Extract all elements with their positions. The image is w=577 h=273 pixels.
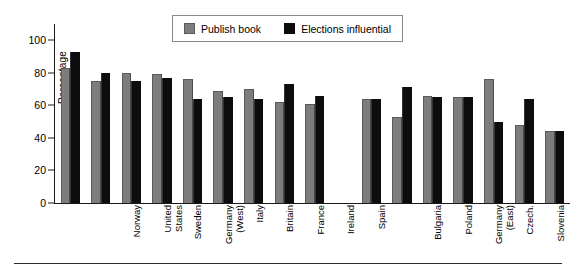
bar-elections-influential [193, 99, 203, 203]
x-tick-label: Italy [255, 205, 266, 263]
bar-publish-book [362, 99, 372, 203]
bar-publish-book [484, 79, 494, 203]
bar-elections-influential [223, 97, 233, 203]
x-tick-label: Norway [132, 205, 143, 263]
bar-publish-book [91, 81, 101, 203]
y-axis-ticks: 020406080100 [0, 0, 60, 273]
bar-publish-book [545, 131, 555, 203]
y-tick-label-20: 20 [34, 164, 46, 176]
bar-elections-influential [555, 131, 565, 203]
bar-elections-influential [371, 99, 381, 203]
bar-group [362, 24, 381, 203]
bar-publish-book [244, 89, 254, 203]
bar-elections-influential [463, 97, 473, 203]
x-tick-label: Britain [285, 205, 296, 263]
bar-publish-book [183, 79, 193, 203]
bar-group [213, 24, 232, 203]
chart-legend: Publish bookElections influential [172, 15, 403, 42]
x-tick-label: Poland [464, 205, 475, 263]
bar-group [61, 24, 80, 203]
bar-elections-influential [402, 87, 412, 203]
bar-publish-book [305, 104, 315, 203]
bar-group [423, 24, 442, 203]
plot-area [55, 24, 570, 203]
bar-elections-influential [162, 78, 172, 203]
x-tick-label: Slovenia [556, 205, 567, 263]
x-tick-label: Spain [377, 205, 388, 263]
legend-swatch-icon [284, 23, 295, 34]
bar-group [244, 24, 263, 203]
x-tick-label: Bulgaria [433, 205, 444, 263]
bar-elections-influential [432, 97, 442, 203]
legend-label: Publish book [201, 23, 261, 35]
x-tick-label: Germany (West) [224, 205, 245, 263]
bar-publish-book [275, 102, 285, 203]
legend-entry: Elections influential [284, 23, 391, 35]
bar-group [392, 24, 411, 203]
bar-publish-book [61, 68, 71, 203]
y-tick-label-100: 100 [28, 34, 46, 46]
bar-group [152, 24, 171, 203]
bar-group [515, 24, 534, 203]
bar-group [545, 24, 564, 203]
x-tick-label: Czech. [525, 205, 536, 263]
y-tick-label-80: 80 [34, 67, 46, 79]
x-axis-line [54, 203, 570, 204]
footer-rule [14, 263, 562, 264]
bar-group [183, 24, 202, 203]
bar-group [91, 24, 110, 203]
x-axis-labels: NorwayUnited StatesSwedenGermany (West)I… [55, 205, 570, 265]
x-tick-label: Sweden [193, 205, 204, 263]
y-tick-label-60: 60 [34, 99, 46, 111]
bar-group [453, 24, 472, 203]
y-tick-label-0: 0 [40, 197, 46, 209]
bar-group [122, 24, 141, 203]
x-tick-label: France [316, 205, 327, 263]
bar-publish-book [152, 74, 162, 203]
bar-publish-book [392, 117, 402, 203]
bar-elections-influential [524, 99, 534, 203]
y-tick-label-40: 40 [34, 132, 46, 144]
bar-chart-figure: Percentage 020406080100 Publish bookElec… [0, 0, 577, 273]
bar-elections-influential [70, 52, 80, 203]
bar-elections-influential [131, 81, 141, 203]
legend-swatch-icon [184, 23, 195, 34]
bar-elections-influential [254, 99, 264, 203]
x-tick-label: Germany (East) [494, 205, 515, 263]
bar-publish-book [213, 91, 223, 203]
bar-publish-book [122, 73, 132, 203]
bar-group [305, 24, 324, 203]
bar-elections-influential [101, 73, 111, 203]
legend-label: Elections influential [301, 23, 391, 35]
bar-elections-influential [494, 122, 504, 203]
bar-group [275, 24, 294, 203]
legend-entry: Publish book [184, 23, 261, 35]
bar-publish-book [423, 96, 433, 203]
bar-elections-influential [284, 84, 294, 203]
bar-elections-influential [315, 96, 325, 203]
bar-publish-book [453, 97, 463, 203]
bar-group [484, 24, 503, 203]
x-tick-label: Ireland [346, 205, 357, 263]
bar-publish-book [515, 125, 525, 203]
x-tick-label: United States [163, 205, 184, 263]
